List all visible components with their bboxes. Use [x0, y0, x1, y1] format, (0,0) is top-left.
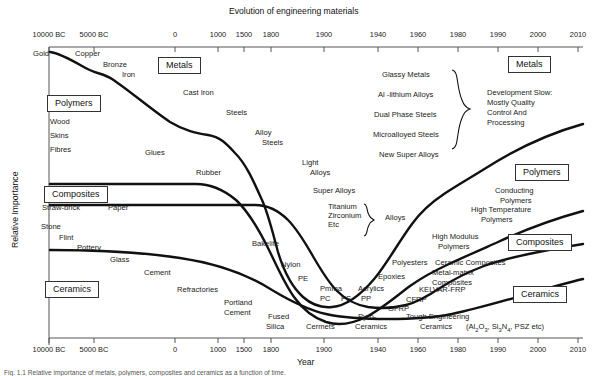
label-etc: Etc: [328, 220, 339, 229]
family-box-ceramics-right[interactable]: Ceramics: [513, 286, 567, 303]
label-titanium: Titanium: [328, 202, 357, 211]
tick-bottom-6: 1900: [309, 345, 339, 354]
label-ps: PS: [341, 294, 351, 303]
tick-top-10: 1990: [483, 30, 513, 39]
label-composites: Composites: [432, 278, 472, 287]
label-straw-brick: Straw-brick: [42, 203, 80, 212]
tick-bottom-10: 1990: [483, 345, 513, 354]
label-processing: Processing: [487, 118, 525, 127]
tick-bottom-4: 1500: [229, 345, 259, 354]
label-portland-cement: Cement: [224, 308, 251, 317]
titanium-bracket: [364, 204, 374, 236]
label-zirconium: Zirconium: [328, 211, 361, 220]
label-polyesters: Polyesters: [392, 258, 427, 267]
metals-bracket: [452, 70, 470, 149]
label-wood: Wood: [50, 117, 70, 126]
label-ceramic-formula: (Al2O3, Si3N4, PSZ etc): [466, 322, 544, 335]
family-box-polymers-left[interactable]: Polymers: [47, 95, 101, 112]
x-axis-label: Year: [297, 357, 314, 367]
label-glues: Glues: [145, 148, 165, 157]
tick-top-8: 1960: [403, 30, 433, 39]
label-tough-engineering: Tough Engineering: [406, 312, 469, 321]
label-gold: Gold: [33, 49, 49, 58]
label-light-alloys: Alloys: [310, 168, 330, 177]
tick-top-2: 0: [162, 30, 188, 39]
label-pc: PC: [320, 294, 331, 303]
label-stone: Stone: [41, 222, 61, 231]
label-pe: PE: [298, 274, 308, 283]
label-cfrp: CFRP: [406, 295, 427, 304]
label-conducting: Conducting: [495, 186, 533, 195]
family-box-metals-right[interactable]: Metals: [508, 56, 551, 73]
tick-bottom-8: 1960: [403, 345, 433, 354]
family-box-composites-right[interactable]: Composites: [508, 234, 572, 251]
family-box-ceramics-left[interactable]: Ceramics: [45, 281, 99, 298]
tick-bottom-11: 2000: [523, 345, 553, 354]
label-bakelite: Bakelite: [252, 239, 279, 248]
label-tough-engineering-ceramics: Ceramics: [420, 322, 452, 331]
tick-top-0: 10000 BC: [26, 30, 72, 39]
tick-bottom-7: 1940: [363, 345, 393, 354]
label-glass: Glass: [110, 255, 129, 264]
label-glassy-metals: Glassy Metals: [382, 70, 430, 79]
label-cement: Cement: [144, 268, 171, 277]
tick-top-9: 1980: [443, 30, 473, 39]
label-development-slow: Development Slow:: [487, 88, 552, 97]
label-cermets: Cermets: [306, 322, 335, 331]
label-al-lithium-alloys: Al -lithium Alloys: [378, 90, 433, 99]
label-iron: Iron: [122, 70, 135, 79]
label-fused: Fused: [268, 312, 289, 321]
family-box-metals-left[interactable]: Metals: [158, 57, 201, 74]
label-refractories: Refractories: [177, 285, 218, 294]
label-pyro-ceramics: Ceramics: [355, 322, 387, 331]
label-fibres: Fibres: [50, 145, 71, 154]
tick-bottom-9: 1980: [443, 345, 473, 354]
bottom-ticks: [49, 338, 578, 343]
family-box-polymers-right[interactable]: Polymers: [515, 164, 569, 181]
tick-top-4: 1500: [229, 30, 259, 39]
label-alloys: Alloys: [385, 213, 405, 222]
label-new-super-alloys: New Super Alloys: [379, 150, 439, 159]
label-ceramic-composites: Ceramic Composites: [435, 258, 505, 267]
label-high-temperature-polymers: Polymers: [481, 215, 513, 224]
label-fused-silica: Silica: [266, 322, 284, 331]
label-pmma: Pmma: [320, 284, 342, 293]
label-steels: Steels: [226, 108, 247, 117]
tick-bottom-5: 1800: [256, 345, 286, 354]
tick-bottom-0: 10000 BC: [26, 345, 72, 354]
family-box-composites-left[interactable]: Composites: [44, 186, 108, 203]
tick-bottom-1: 5000 BC: [71, 345, 117, 354]
tick-bottom-2: 0: [162, 345, 188, 354]
tick-top-12: 2010: [563, 30, 593, 39]
label-skins: Skins: [50, 131, 69, 140]
label-paper: Paper: [108, 203, 128, 212]
label-epoxies: Epoxies: [378, 272, 405, 281]
top-ticks: [49, 47, 578, 52]
label-control-and: Control And: [487, 108, 527, 117]
label-cast-iron: Cast Iron: [183, 88, 214, 97]
label-portland: Portland: [224, 298, 252, 307]
label-pyro: Pyro-: [358, 312, 376, 321]
label-bronze: Bronze: [103, 60, 127, 69]
label-alloy: Alloy: [255, 128, 271, 137]
label-high-temperature: High Temperature: [471, 205, 531, 214]
label-high-modulus-polymers: Polymers: [438, 242, 470, 251]
tick-top-6: 1900: [309, 30, 339, 39]
label-mostly-quality: Mostly Quality: [487, 98, 535, 107]
label-acrylics: Acrylics: [358, 284, 384, 293]
tick-top-1: 5000 BC: [71, 30, 117, 39]
tick-bottom-12: 2010: [563, 345, 593, 354]
y-axis-label: Relative Importance: [10, 172, 20, 248]
tick-top-11: 2000: [523, 30, 553, 39]
label-super-alloys: Super Alloys: [313, 186, 355, 195]
label-high-modulus: High Modulus: [432, 232, 478, 241]
label-rubber: Rubber: [196, 168, 221, 177]
label-flint: Flint: [59, 233, 73, 242]
figure-caption: Fig. 1.1 Relative importance of metals, …: [4, 369, 286, 376]
label-light: Light: [302, 158, 318, 167]
label-copper: Copper: [75, 49, 100, 58]
label-microalloyed-steels: Microalloyed Steels: [373, 130, 439, 139]
tick-top-5: 1800: [256, 30, 286, 39]
tick-top-7: 1940: [363, 30, 393, 39]
